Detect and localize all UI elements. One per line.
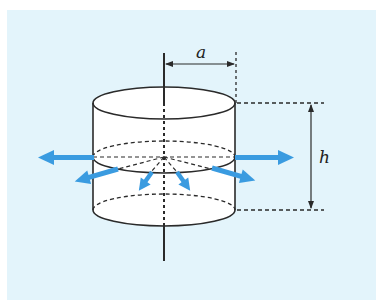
radius-label: a	[196, 42, 206, 62]
height-label: h	[319, 147, 330, 167]
cylinder-diagram: a h	[0, 0, 381, 302]
